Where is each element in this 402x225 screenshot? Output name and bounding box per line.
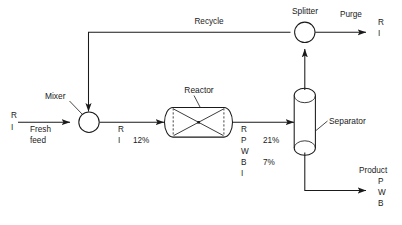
- process-flow-diagram: Recycle Splitter Purge R I Mixer R I Fre…: [0, 0, 402, 225]
- flowsheet-canvas: Recycle Splitter Purge R I Mixer R I Fre…: [0, 0, 402, 225]
- reactor-outlet-component-0: R: [241, 125, 247, 134]
- mixer-outlet-component-0: R: [118, 125, 124, 134]
- splitter-label: Splitter: [292, 6, 318, 16]
- fresh-feed-component-1: I: [11, 123, 13, 132]
- reactor-outlet-component-1: P: [241, 136, 247, 145]
- fresh-feed-label-line1: Fresh: [30, 125, 51, 134]
- product-stream-label: Product: [359, 166, 388, 175]
- purge-stream-label: Purge: [340, 10, 362, 19]
- reactor-outlet-value-1: 7%: [263, 158, 275, 167]
- reactor-outlet-component-3: B: [241, 158, 247, 167]
- product-component-2: B: [378, 199, 384, 208]
- reactor-outlet-component-2: W: [241, 147, 249, 156]
- mixer-outlet-conversion: 12%: [133, 136, 149, 145]
- product-stream-line: [305, 153, 366, 191]
- product-component-1: W: [378, 188, 386, 197]
- recycle-stream-line: [89, 32, 291, 111]
- separator-label: Separator: [329, 116, 366, 126]
- reactor-label: Reactor: [184, 85, 214, 95]
- purge-component-1: I: [378, 29, 380, 38]
- reactor-outlet-component-4: I: [241, 169, 243, 178]
- separator-vessel: [294, 88, 315, 155]
- mixer-label: Mixer: [45, 91, 66, 101]
- mixer-outlet-component-1: I: [118, 136, 120, 145]
- mixer-node: [79, 112, 99, 132]
- reactor-vessel: [165, 108, 233, 138]
- mixer-leader-line: [70, 101, 83, 115]
- fresh-feed-label-line2: feed: [30, 136, 46, 145]
- purge-component-0: R: [378, 18, 384, 27]
- splitter-node: [295, 22, 315, 42]
- separator-leader-line: [316, 121, 328, 131]
- fresh-feed-component-0: R: [11, 111, 17, 120]
- reactor-leader-line: [194, 96, 200, 108]
- reactor-outlet-value-0: 21%: [263, 136, 279, 145]
- recycle-stream-label: Recycle: [194, 17, 224, 26]
- product-component-0: P: [378, 177, 384, 186]
